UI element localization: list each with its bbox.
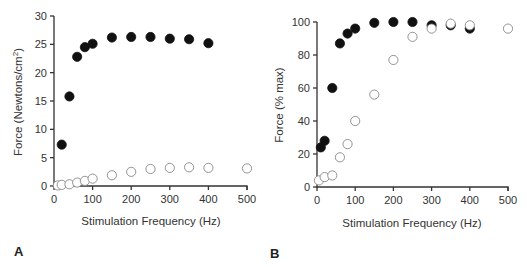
chart-a-point-filled [204,39,213,48]
chart-b-axes [317,22,508,191]
chart-a-point-filled [73,52,82,61]
chart-a-x-tick-label: 400 [199,193,217,205]
chart-a-y-tick-label: 20 [35,67,47,79]
chart-b-x-tick-label: 300 [422,194,440,206]
chart-a-point-open [185,163,194,172]
chart-b-x-tick-label: 200 [384,194,402,206]
panel-label-b: B [270,246,279,261]
chart-a-y-tick-label: 5 [41,152,47,164]
chart-b-y-ticks: 020406080100 [292,16,317,193]
chart-a-y-axis-title: Force (Newtons/cm2) [11,48,25,156]
chart-b-point-open [370,90,379,99]
chart-a-y-tick-label: 30 [35,10,47,22]
chart-a-point-open [204,163,213,172]
chart-a-points [53,32,251,190]
chart-b-x-ticks: 0100200300400500 [314,187,517,206]
chart-a-point-filled [146,32,155,41]
chart-a-x-axis-title: Stimulation Frequency (Hz) [81,215,220,227]
chart-b-point-open [328,171,337,180]
chart-b-x-tick-label: 500 [499,194,517,206]
chart-a-point-open [165,163,174,172]
chart-a-point-open [127,167,136,176]
chart-b-points [314,17,512,185]
chart-a-point-filled [165,34,174,43]
chart-a-x-ticks: 0100200300400500 [51,186,256,205]
chart-b-point-open [335,153,344,162]
chart-b-point-open [465,21,474,30]
chart-a-axes [54,16,247,190]
chart-b-point-filled [351,24,360,33]
chart-a-point-filled [107,33,116,42]
chart-a-point-filled [127,32,136,41]
chart-a-x-tick-label: 300 [161,193,179,205]
chart-a-point-filled [185,35,194,44]
chart-b-point-filled [335,39,344,48]
chart-a-y-tick-label: 15 [35,95,47,107]
chart-b-point-open [343,140,352,149]
chart-b-point-open [408,32,417,41]
chart-b-point-filled [408,17,417,26]
chart-b-y-tick-label: 60 [298,82,310,94]
chart-b-x-tick-label: 100 [346,194,364,206]
chart-b-point-open [503,24,512,33]
chart-a-y-tick-label: 25 [35,38,47,50]
chart-a-y-ticks: 051015202530 [35,10,54,192]
chart-a-x-tick-label: 200 [122,193,140,205]
chart-b-x-axis-title: Stimulation Frequency (Hz) [342,217,481,229]
chart-a-y-tick-label: 10 [35,123,47,135]
chart-a-y-axis-title-text: Force (Newtons/cm [12,56,24,156]
chart-a-y-axis-title-close: ) [12,48,24,52]
chart-a-x-tick-label: 500 [238,193,256,205]
chart-a-point-open [88,174,97,183]
chart-b-y-tick-label: 80 [298,49,310,61]
chart-b: 020406080100 0100200300400500 Stimulatio… [270,16,517,261]
chart-a-x-tick-label: 100 [83,193,101,205]
chart-b-point-open [427,24,436,33]
chart-b-point-filled [389,17,398,26]
chart-a-point-filled [57,140,66,149]
figure: 051015202530 0100200300400500 Stimulatio… [0,0,527,267]
panel-label-a: A [14,244,24,259]
chart-a-x-tick-label: 0 [51,193,57,205]
chart-b-point-filled [320,136,329,145]
chart-b-y-tick-label: 100 [292,16,310,28]
chart-a-point-open [242,164,251,173]
chart-a-point-filled [65,92,74,101]
chart-b-point-open [446,19,455,28]
chart-a-point-open [146,164,155,173]
chart-b-x-tick-label: 400 [461,194,479,206]
chart-b-point-open [351,116,360,125]
chart-b-x-tick-label: 0 [314,194,320,206]
chart-b-y-tick-label: 40 [298,115,310,127]
chart-a-y-tick-label: 0 [41,180,47,192]
chart-b-y-axis-title: Force (% max) [273,67,285,143]
chart-b-point-filled [328,83,337,92]
chart-b-point-filled [370,18,379,27]
chart-a: 051015202530 0100200300400500 Stimulatio… [11,10,257,259]
chart-b-y-tick-label: 20 [298,148,310,160]
chart-b-point-open [389,55,398,64]
chart-b-y-tick-label: 0 [304,181,310,193]
chart-a-point-open [107,171,116,180]
chart-a-point-filled [88,39,97,48]
